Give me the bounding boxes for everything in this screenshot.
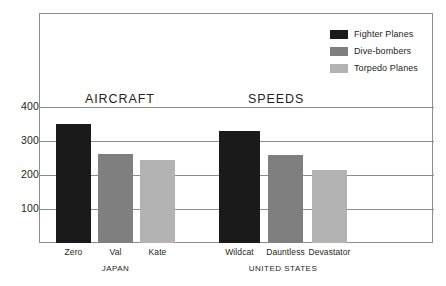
bar-devastator[interactable] <box>312 170 347 243</box>
legend-item-2[interactable]: Torpedo Planes <box>330 61 418 75</box>
bar-wildcat[interactable] <box>219 131 260 243</box>
bar-dauntless[interactable] <box>268 155 303 243</box>
legend-swatch-icon <box>330 64 348 73</box>
bar-zero[interactable] <box>56 124 91 243</box>
group-label-japan: JAPAN <box>56 264 175 274</box>
legend-item-0[interactable]: Fighter Planes <box>330 27 418 41</box>
chart-container: 400300200100 AIRCRAFT SPEEDS ZeroValKate… <box>0 0 446 286</box>
legend-label: Dive-bombers <box>354 46 411 56</box>
category-label-devastator: Devastator <box>300 247 359 257</box>
legend-label: Torpedo Planes <box>354 63 418 73</box>
group-label-united-states: UNITED STATES <box>219 264 347 274</box>
legend-label: Fighter Planes <box>354 29 413 39</box>
bar-kate[interactable] <box>140 160 175 243</box>
legend: Fighter PlanesDive-bombersTorpedo Planes <box>330 27 418 78</box>
legend-swatch-icon <box>330 47 348 56</box>
legend-swatch-icon <box>330 30 348 39</box>
category-label-kate: Kate <box>128 247 187 257</box>
bar-val[interactable] <box>98 154 133 243</box>
legend-item-1[interactable]: Dive-bombers <box>330 44 418 58</box>
